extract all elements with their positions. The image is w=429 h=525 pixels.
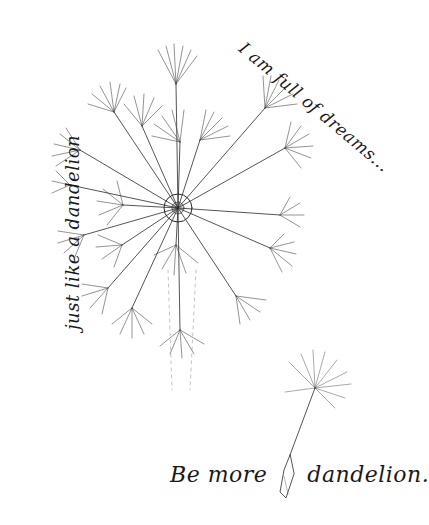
handwritten-side-text: just like a dandelion bbox=[62, 135, 83, 330]
bottom-text-part2: dandelion. bbox=[307, 462, 429, 487]
faint-stems bbox=[168, 270, 196, 390]
bottom-text-part1: Be more bbox=[170, 462, 267, 487]
handwritten-bottom-text: Be moredandelion. bbox=[170, 462, 429, 487]
pappus-tufts bbox=[52, 44, 313, 358]
seed-stalks bbox=[70, 84, 285, 330]
